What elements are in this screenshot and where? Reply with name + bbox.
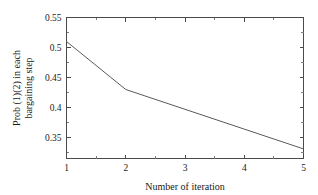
y-axis-title-line-1: Prob (1)(2) in each	[11, 50, 23, 126]
y-tick-label: 0.35	[45, 133, 62, 143]
y-tick-label: 0.55	[45, 13, 62, 23]
y-axis-title-line-2: bargaining step	[23, 57, 34, 118]
y-tick-label: 0.4	[50, 103, 62, 113]
y-axis-tick-labels: 0.350.40.450.50.55	[45, 13, 62, 143]
data-series-group	[67, 42, 304, 149]
x-tick-label: 2	[123, 163, 128, 173]
x-tick-label: 5	[301, 163, 306, 173]
x-tick-label: 1	[64, 163, 69, 173]
x-axis-tick-labels: 12345	[64, 163, 306, 173]
chart-figure: 12345 0.350.40.450.50.55 Number of itera…	[0, 0, 318, 195]
y-tick-label: 0.5	[50, 43, 62, 53]
x-tick-label: 3	[183, 163, 188, 173]
line-chart: 12345 0.350.40.450.50.55 Number of itera…	[0, 0, 318, 195]
x-tick-label: 4	[242, 163, 247, 173]
x-axis-title: Number of iteration	[145, 181, 224, 192]
y-tick-label: 0.45	[45, 73, 62, 83]
series-line-0	[67, 42, 304, 149]
